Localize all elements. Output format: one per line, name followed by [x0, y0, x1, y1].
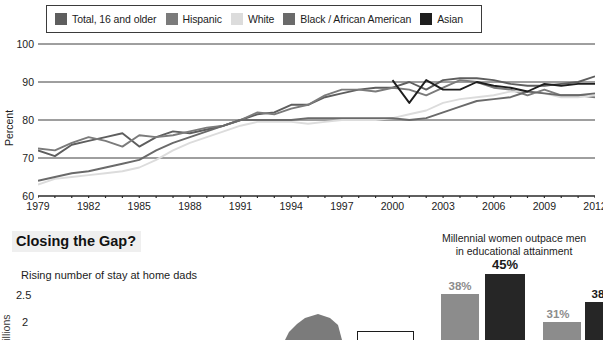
- legend-item-asian: Asian: [420, 13, 463, 25]
- x-axis-labels: 1979198219851988199119941997200020032006…: [0, 200, 603, 220]
- x-tick-label-1982: 1982: [77, 200, 100, 212]
- x-tick-label-2003: 2003: [431, 200, 454, 212]
- y-tick-100: 100: [8, 38, 34, 50]
- legend-label-hispanic: Hispanic: [183, 13, 222, 25]
- x-tick-label-1979: 1979: [26, 200, 49, 212]
- x-tick-label-1994: 1994: [279, 200, 302, 212]
- legend-swatch-hispanic: [166, 13, 178, 25]
- sahd-legend-box: [357, 331, 414, 340]
- line-series-layer: [38, 76, 595, 184]
- millennial-education-bar-chart: Millennial women outpace men in educatio…: [425, 228, 603, 340]
- millennial-title-line-2: in educational attainment: [456, 245, 573, 257]
- millennial-title-line-1: Millennial women outpace men: [442, 232, 586, 244]
- x-tick-label-2006: 2006: [482, 200, 505, 212]
- legend-label-asian: Asian: [437, 13, 463, 25]
- bar-value-women-1: 38%: [441, 280, 479, 292]
- sahd-area-shape: [285, 314, 342, 340]
- legend-swatch-black-african-american: [283, 13, 295, 25]
- bar-women-1: [441, 294, 479, 340]
- x-tick-label-1988: 1988: [178, 200, 201, 212]
- x-tick-label-2012: 2012: [583, 200, 603, 212]
- x-tick-label-2009: 2009: [533, 200, 556, 212]
- legend-label-black-african-american: Black / African American: [300, 13, 411, 25]
- line-series-white: [38, 92, 595, 185]
- legend-item-hispanic: Hispanic: [166, 13, 222, 25]
- legend-label-white: White: [248, 13, 274, 25]
- gridlines: [38, 44, 595, 196]
- line-series-black-african-american: [38, 92, 595, 181]
- bar-men-1: [485, 274, 525, 340]
- y-axis-ticks: 100 90 80 70 60: [0, 34, 34, 220]
- lower-panel: Closing the Gap? Rising number of stay a…: [0, 228, 603, 340]
- legend-swatch-total: [55, 13, 67, 25]
- chart-legend: Total, 16 and older Hispanic White Black…: [46, 5, 482, 33]
- legend-item-black-african-american: Black / African American: [283, 13, 411, 25]
- legend-item-white: White: [231, 13, 274, 25]
- x-tick-label-1997: 1997: [330, 200, 353, 212]
- infographic-page: Total, 16 and older Hispanic White Black…: [0, 0, 603, 340]
- legend-swatch-white: [231, 13, 243, 25]
- y-tick-90: 90: [8, 76, 34, 88]
- bar-men-2: [585, 302, 603, 340]
- legend-label-total: Total, 16 and older: [72, 13, 157, 25]
- bar-women-2: [543, 322, 581, 340]
- bar-value-women-2: 31%: [539, 308, 577, 320]
- stay-at-home-dads-area-chart: [0, 228, 420, 340]
- millennial-chart-title: Millennial women outpace men in educatio…: [425, 232, 603, 258]
- legend-swatch-asian: [420, 13, 432, 25]
- x-tick-label-1991: 1991: [229, 200, 252, 212]
- y-tick-80: 80: [8, 114, 34, 126]
- line-chart-plot-area: [38, 34, 595, 198]
- legend-item-total: Total, 16 and older: [55, 13, 157, 25]
- x-tick-label-2000: 2000: [381, 200, 404, 212]
- line-chart: Percent 100 90 80 70 60 1979198219851988…: [0, 34, 603, 220]
- y-tick-70: 70: [8, 152, 34, 164]
- x-tick-label-1985: 1985: [128, 200, 151, 212]
- bar-value-men-1: 45%: [485, 257, 525, 272]
- bar-value-men-2: 38%: [583, 288, 603, 300]
